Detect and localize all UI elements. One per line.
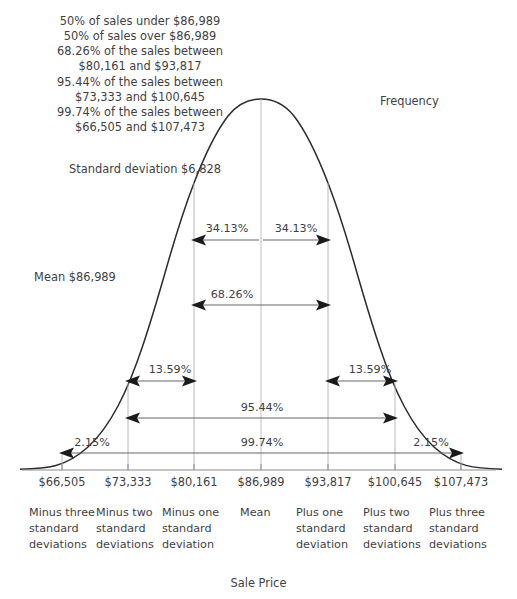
summary-line: $66,505 and $107,473: [0, 120, 280, 135]
caption-line: Minus three: [29, 505, 103, 521]
arrow-99: [59, 448, 464, 459]
summary-line: 95.44% of the sales between: [0, 75, 280, 90]
tick-caption-plus-one: Plus one standard deviation: [296, 505, 370, 553]
percent-label-215-left: 2.15%: [64, 436, 120, 449]
caption-line: deviations: [429, 537, 503, 553]
summary-line: $73,333 and $100,645: [0, 90, 280, 105]
normal-distribution-chart: 50% of sales under $86,989 50% of sales …: [0, 0, 517, 599]
caption-line: Mean: [240, 505, 290, 521]
caption-line: deviations: [363, 537, 437, 553]
caption-line: Minus one: [162, 505, 236, 521]
caption-line: Plus three: [429, 505, 503, 521]
arrow-13-left: [125, 376, 197, 387]
standard-deviation-label: Standard deviation $6,828: [0, 162, 290, 177]
caption-line: deviations: [96, 537, 170, 553]
summary-line: 50% of sales under $86,989: [0, 14, 280, 29]
arrow-34-right: [263, 235, 331, 246]
caption-line: Minus two: [96, 505, 170, 521]
caption-line: standard: [162, 521, 236, 537]
caption-line: standard: [296, 521, 370, 537]
tick-caption-minus-one: Minus one standard deviation: [162, 505, 236, 553]
caption-line: deviation: [162, 537, 236, 553]
summary-line: 50% of sales over $86,989: [0, 29, 280, 44]
arrow-34-left: [191, 235, 259, 246]
summary-line: $80,161 and $93,817: [0, 59, 280, 74]
tick-caption-minus-three: Minus three standard deviations: [29, 505, 103, 553]
percent-label-99: 99.74%: [232, 436, 292, 449]
caption-line: standard: [363, 521, 437, 537]
caption-line: Plus two: [363, 505, 437, 521]
caption-line: standard: [29, 521, 103, 537]
caption-line: Plus one: [296, 505, 370, 521]
percent-label-34-left: 34.13%: [197, 222, 257, 235]
caption-line: standard: [96, 521, 170, 537]
summary-annotation-block: 50% of sales under $86,989 50% of sales …: [0, 14, 280, 135]
percent-label-13-right: 13.59%: [340, 363, 400, 376]
caption-line: deviations: [29, 537, 103, 553]
arrow-95: [125, 413, 398, 424]
x-axis-title: Sale Price: [0, 576, 517, 591]
tick-caption-plus-two: Plus two standard deviations: [363, 505, 437, 553]
x-axis-ticks: [62, 464, 461, 470]
mean-label: Mean $86,989: [0, 270, 150, 285]
percent-label-95: 95.44%: [232, 401, 292, 414]
tick-caption-plus-three: Plus three standard deviations: [429, 505, 503, 553]
frequency-axis-label: Frequency: [380, 94, 439, 109]
caption-line: deviation: [296, 537, 370, 553]
percent-label-34-right: 34.13%: [266, 222, 326, 235]
percent-label-13-left: 13.59%: [140, 363, 200, 376]
tick-caption-minus-two: Minus two standard deviations: [96, 505, 170, 553]
tick-caption-mean: Mean: [240, 505, 290, 521]
summary-line: 99.74% of the sales between: [0, 105, 280, 120]
caption-line: standard: [429, 521, 503, 537]
tick-value-plus-three: $107,473: [421, 475, 501, 489]
percent-label-68: 68.26%: [202, 288, 262, 301]
summary-line: 68.26% of the sales between: [0, 44, 280, 59]
percent-label-215-right: 2.15%: [403, 436, 459, 449]
arrow-13-right: [325, 376, 398, 387]
